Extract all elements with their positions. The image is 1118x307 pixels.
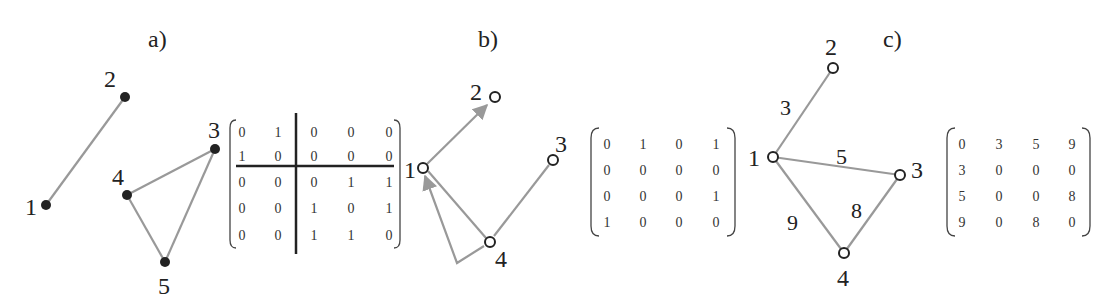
graph-figure: a) 1 2 3 4 5 0100010000000110010100110 <box>0 0 1118 307</box>
matrix-cell: 0 <box>275 149 282 164</box>
node-2-label: 2 <box>104 66 116 92</box>
matrix-cell: 0 <box>676 189 683 204</box>
matrix-cell: 0 <box>996 215 1003 230</box>
panel-b-label: b) <box>478 26 498 52</box>
panel-a-label: a) <box>148 26 167 52</box>
panel-c: c) 3 5 9 8 1 2 3 4 0359300050089080 <box>748 26 1090 291</box>
matrix-cell: 0 <box>996 189 1003 204</box>
graph-a-edges <box>46 97 215 262</box>
edge-1-to-2 <box>427 105 487 164</box>
matrix-a-left-bracket <box>230 120 236 248</box>
matrix-cell: 0 <box>311 175 318 190</box>
matrix-cell: 9 <box>959 215 966 230</box>
node-1-label: 1 <box>404 157 416 183</box>
matrix-cell: 0 <box>713 215 720 230</box>
matrix-cell: 0 <box>348 125 355 140</box>
matrix-cell: 0 <box>996 163 1003 178</box>
node-3-label: 3 <box>911 157 923 183</box>
matrix-cell: 0 <box>1033 189 1040 204</box>
matrix-cell: 0 <box>311 125 318 140</box>
edge-3-5 <box>165 149 215 262</box>
matrix-cell: 1 <box>386 175 393 190</box>
node-4-label: 4 <box>112 164 124 190</box>
edge-4-3 <box>127 149 215 195</box>
edge-1-4 <box>773 157 844 253</box>
edge-3-4 <box>494 165 549 236</box>
panel-c-label: c) <box>883 26 902 52</box>
matrix-b-left-bracket <box>591 128 599 236</box>
matrix-cell: 1 <box>713 137 720 152</box>
node-4 <box>839 248 849 258</box>
matrix-cell: 0 <box>239 228 246 243</box>
matrix-cell: 0 <box>604 163 611 178</box>
matrix-cell: 0 <box>676 137 683 152</box>
panel-b: b) 1 2 3 4 0101000000011000 <box>404 26 735 272</box>
matrix-cell: 3 <box>996 137 1003 152</box>
matrix-cell: 0 <box>386 125 393 140</box>
node-3 <box>895 170 905 180</box>
matrix-cell: 0 <box>386 149 393 164</box>
graph-c-weights: 3 5 9 8 <box>780 95 862 235</box>
panel-a: a) 1 2 3 4 5 0100010000000110010100110 <box>25 26 400 299</box>
node-4-label: 4 <box>837 265 849 291</box>
matrix-cell: 5 <box>1033 137 1040 152</box>
matrix-b-right-bracket <box>727 128 735 236</box>
matrix-cell: 0 <box>348 201 355 216</box>
node-1 <box>41 200 51 210</box>
matrix-cell: 0 <box>1033 163 1040 178</box>
matrix-cell: 0 <box>604 137 611 152</box>
matrix-cell: 1 <box>604 215 611 230</box>
matrix-cell: 0 <box>604 189 611 204</box>
matrix-cell: 0 <box>239 125 246 140</box>
matrix-cell: 1 <box>386 201 393 216</box>
matrix-c-right-bracket <box>1082 128 1090 236</box>
matrix-cell: 1 <box>348 228 355 243</box>
weight-1-4: 9 <box>787 210 798 235</box>
edge-1-4 <box>428 171 486 238</box>
matrix-cell: 1 <box>311 201 318 216</box>
node-2-label: 2 <box>470 79 482 105</box>
matrix-cell: 0 <box>239 201 246 216</box>
node-1 <box>768 152 778 162</box>
matrix-cell: 0 <box>386 228 393 243</box>
matrix-c-left-bracket <box>947 128 955 236</box>
matrix-cell: 0 <box>1069 215 1076 230</box>
weight-1-2: 3 <box>780 95 791 120</box>
node-3 <box>210 144 220 154</box>
node-2 <box>120 92 130 102</box>
node-1 <box>418 163 428 173</box>
matrix-cell: 0 <box>275 201 282 216</box>
matrix-cell: 1 <box>640 137 647 152</box>
weight-1-3: 5 <box>836 144 847 169</box>
matrix-cell: 0 <box>348 149 355 164</box>
matrix-cell: 1 <box>348 175 355 190</box>
node-2 <box>490 92 500 102</box>
edge-4-5 <box>127 195 165 262</box>
node-2 <box>828 63 838 73</box>
matrix-cell: 0 <box>640 163 647 178</box>
weight-3-4: 8 <box>851 198 862 223</box>
matrix-b: 0101000000011000 <box>591 128 735 236</box>
matrix-cell: 0 <box>959 137 966 152</box>
node-3-label: 3 <box>208 117 220 143</box>
matrix-cell: 0 <box>640 215 647 230</box>
node-4 <box>485 237 495 247</box>
matrix-cell: 0 <box>311 149 318 164</box>
graph-a-nodes: 1 2 3 4 5 <box>25 66 220 299</box>
node-3-label: 3 <box>555 131 567 157</box>
node-4 <box>122 190 132 200</box>
matrix-cell: 0 <box>275 228 282 243</box>
node-5 <box>160 257 170 267</box>
matrix-cell: 1 <box>713 189 720 204</box>
matrix-cell: 0 <box>713 163 720 178</box>
node-4-label: 4 <box>495 246 507 272</box>
node-5-label: 5 <box>158 273 170 299</box>
matrix-cell: 0 <box>640 189 647 204</box>
matrix-cell: 8 <box>1033 215 1040 230</box>
matrix-cell: 5 <box>959 189 966 204</box>
matrix-cell: 0 <box>676 215 683 230</box>
node-1-label: 1 <box>748 145 760 171</box>
matrix-cell: 9 <box>1069 137 1076 152</box>
matrix-cell: 0 <box>676 163 683 178</box>
matrix-cell: 1 <box>239 149 246 164</box>
